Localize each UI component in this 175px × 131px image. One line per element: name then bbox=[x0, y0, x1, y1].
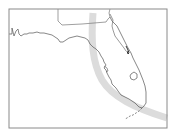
florida-map bbox=[0, 0, 175, 131]
map-container: Florida storm track map bbox=[0, 0, 175, 131]
